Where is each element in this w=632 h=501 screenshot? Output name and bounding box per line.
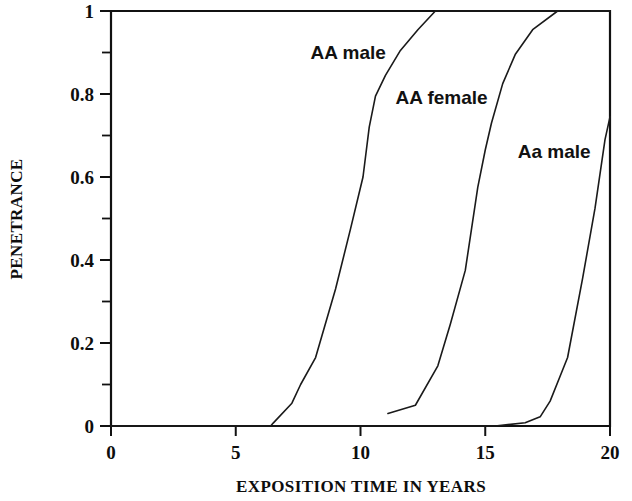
penetrance-chart: 00.20.40.60.81 05101520 AA maleAA female…: [0, 0, 632, 501]
series-label: Aa male: [518, 141, 591, 162]
y-tick-label: 0.4: [70, 250, 94, 271]
x-tick-label: 20: [601, 442, 620, 463]
y-tick-label: 0.6: [70, 167, 94, 188]
y-axis-ticks: [100, 11, 111, 426]
series-curves: [111, 11, 610, 426]
y-axis-title: PENETRANCE: [7, 158, 26, 279]
x-tick-label: 0: [106, 442, 116, 463]
y-tick-label: 0.8: [70, 84, 94, 105]
x-tick-label: 5: [231, 442, 241, 463]
x-tick-label: 10: [351, 442, 370, 463]
y-axis-tick-labels: 00.20.40.60.81: [70, 1, 94, 437]
series-annotations: AA maleAA femaleAa male: [311, 42, 591, 163]
series-curve: [111, 11, 610, 426]
series-label: AA female: [395, 87, 487, 108]
chart-canvas: 00.20.40.60.81 05101520 AA maleAA female…: [0, 0, 632, 501]
series-curve: [111, 117, 610, 426]
x-axis-tick-labels: 05101520: [106, 442, 619, 463]
y-tick-label: 1: [85, 1, 95, 22]
plot-frame: [111, 11, 610, 426]
x-tick-label: 15: [476, 442, 495, 463]
x-axis-ticks: [111, 426, 610, 436]
x-axis-title: EXPOSITION TIME IN YEARS: [236, 477, 486, 496]
series-curve: [388, 11, 610, 414]
y-tick-label: 0.2: [70, 333, 94, 354]
y-tick-label: 0: [85, 416, 95, 437]
series-label: AA male: [311, 42, 386, 63]
